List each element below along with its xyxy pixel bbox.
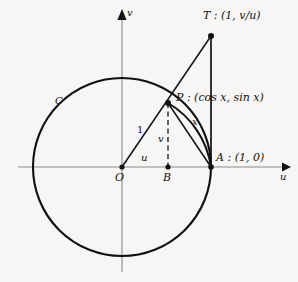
unit-circle-figure: T : (1, v/u) P : (cos x, sin x) A : (1, … xyxy=(0,0,298,282)
point-marker-B xyxy=(165,164,170,169)
arc-label-x: x xyxy=(192,117,198,127)
point-marker-P xyxy=(165,100,171,106)
segment-label-radius-one: 1 xyxy=(137,125,143,135)
v-axis-arrowhead xyxy=(117,9,126,20)
point-marker-A xyxy=(208,164,214,170)
v-axis-label: v xyxy=(127,8,133,18)
segment-label-u: u xyxy=(141,153,147,163)
point-marker-T xyxy=(208,33,214,39)
point-label-B: B xyxy=(163,172,171,183)
diagram-canvas xyxy=(0,0,298,282)
point-label-T: T : (1, v/u) xyxy=(203,10,261,21)
point-marker-O xyxy=(119,164,124,169)
point-label-P: P : (cos x, sin x) xyxy=(176,92,264,103)
point-label-A: A : (1, 0) xyxy=(216,152,264,163)
circle-label-C: C xyxy=(55,96,63,106)
point-label-O: O xyxy=(115,172,124,183)
segment-label-v: v xyxy=(158,134,164,144)
u-axis-label: u xyxy=(280,172,286,182)
